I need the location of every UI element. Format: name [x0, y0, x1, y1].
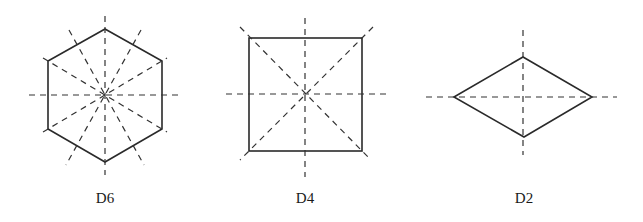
- label-d6: D6: [96, 190, 114, 207]
- label-d4: D4: [296, 190, 314, 207]
- hexagon-figure: [29, 16, 183, 175]
- square-figure: [226, 18, 386, 177]
- symmetry-diagram: [0, 0, 643, 222]
- label-d2: D2: [515, 190, 533, 207]
- rhombus-figure: [426, 30, 617, 155]
- hexagon-axis-edge-1: [69, 30, 144, 165]
- hexagon-axis-edge-2: [66, 30, 141, 165]
